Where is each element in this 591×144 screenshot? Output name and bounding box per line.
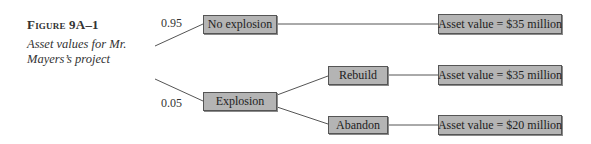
outcome-abandon: Asset value = $20 million [438,115,562,135]
probability-no-explosion: 0.95 [161,16,182,31]
connector-explosion-abandon [277,107,328,124]
node-explosion: Explosion [203,92,277,111]
node-abandon: Abandon [328,116,388,134]
probability-explosion: 0.05 [161,96,182,111]
node-no-explosion: No explosion [203,15,277,34]
connector-explosion-rebuild [277,76,328,95]
outcome-rebuild: Asset value = $35 million [438,65,562,85]
node-rebuild: Rebuild [328,66,388,85]
outcome-no-explosion: Asset value = $35 million [438,14,562,34]
